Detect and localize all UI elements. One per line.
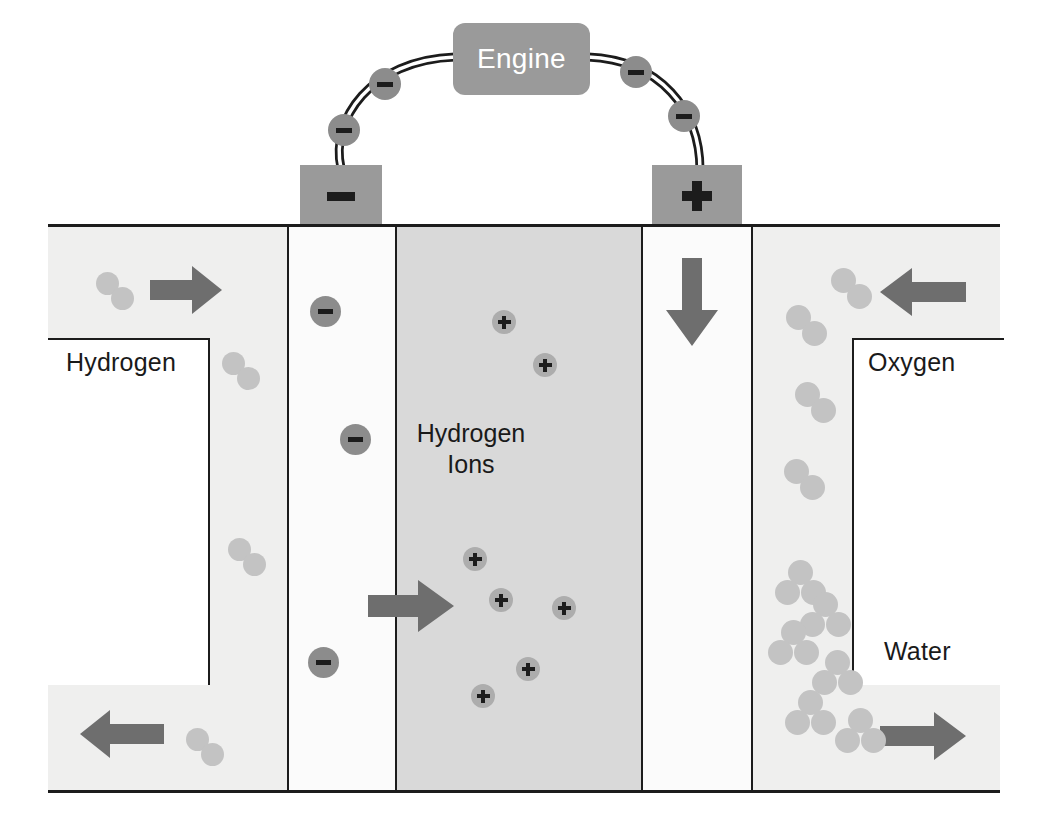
hydrogen-molecule-4 <box>186 728 230 772</box>
hydrogen-ion-5 <box>552 596 576 620</box>
water-molecule-6 <box>835 708 887 758</box>
hydrogen-molecule-2 <box>222 352 266 396</box>
wire-electron-2 <box>369 68 401 100</box>
hydrogen-molecule-1 <box>96 272 140 316</box>
divider-anode-membrane <box>395 227 397 790</box>
cell-bottom-border <box>48 790 1000 793</box>
anode-electron-2 <box>340 424 371 455</box>
oxygen-molecule-2 <box>786 305 834 353</box>
wire-electron-4 <box>668 100 700 132</box>
divider-membrane-cathode <box>641 227 643 790</box>
hydrogen-label-box <box>48 338 210 685</box>
oxygen-label: Oxygen <box>868 348 955 377</box>
oxygen-molecule-4 <box>784 459 832 507</box>
water-outlet-arrow <box>880 712 966 760</box>
fuel-cell-diagram: Engine Hydrogen Oxygen Water Hydrogen Io… <box>0 0 1042 827</box>
hydrogen-label: Hydrogen <box>66 348 176 377</box>
hydrogen-ion-6 <box>516 657 540 681</box>
anode-electron-3 <box>308 647 339 678</box>
divider-cathode-gas <box>751 227 753 790</box>
engine-box: Engine <box>453 23 590 95</box>
cathode-terminal <box>652 165 742 227</box>
electron-down-arrow <box>666 258 718 346</box>
hydrogen-inlet-arrow <box>150 266 222 314</box>
hydrogen-ion-1 <box>492 310 516 334</box>
hydrogen-ion-2 <box>533 353 557 377</box>
proton-exchange-membrane <box>396 227 642 790</box>
proton-migration-arrow <box>368 580 454 632</box>
divider-anode-gas <box>287 227 289 790</box>
hydrogen-ions-label-line1: Hydrogen <box>348 418 594 449</box>
anode-electrode <box>288 227 396 790</box>
cell-top-border <box>48 224 1000 227</box>
oxygen-molecule-3 <box>795 382 843 430</box>
engine-label: Engine <box>477 43 566 75</box>
water-molecule-5 <box>785 690 837 740</box>
oxygen-label-box <box>852 338 1004 685</box>
anode-terminal <box>300 165 382 227</box>
hydrogen-ion-4 <box>489 588 513 612</box>
hydrogen-molecule-3 <box>228 538 272 582</box>
hydrogen-ion-7 <box>471 684 495 708</box>
oxygen-inlet-arrow <box>880 268 966 316</box>
plus-icon-vertical <box>692 181 702 211</box>
oxygen-molecule-1 <box>831 268 879 316</box>
wire-electron-1 <box>328 114 360 146</box>
hydrogen-ions-label-line2: Ions <box>348 449 594 480</box>
water-label: Water <box>884 637 951 666</box>
wire-electron-3 <box>620 56 652 88</box>
anode-electron-1 <box>310 296 341 327</box>
hydrogen-ions-label: Hydrogen Ions <box>348 418 594 480</box>
hydrogen-ion-3 <box>463 547 487 571</box>
hydrogen-outlet-arrow <box>80 710 164 758</box>
minus-icon <box>327 192 355 201</box>
